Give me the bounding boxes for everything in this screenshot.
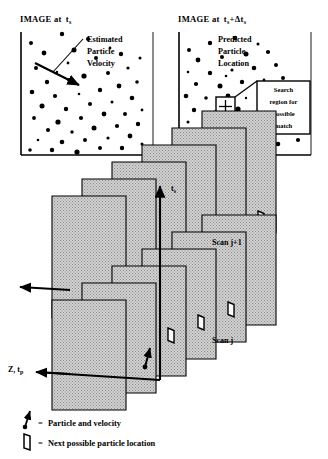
scan-label-lower: Scan j bbox=[212, 336, 233, 345]
particle-dot bbox=[252, 66, 257, 71]
legend-label-2: Next possible particle location bbox=[48, 439, 156, 448]
particle-dot bbox=[257, 43, 260, 46]
particle-dot bbox=[187, 121, 190, 124]
svg-text:Predicted: Predicted bbox=[218, 35, 252, 44]
particle-dot bbox=[115, 124, 119, 128]
particle-dot bbox=[34, 66, 38, 70]
legend-item-next-location: = Next possible particle location bbox=[24, 434, 156, 450]
svg-text:Estimated: Estimated bbox=[87, 35, 123, 44]
particle-dot bbox=[130, 96, 135, 101]
panel-left: IMAGE atts Estimated Particle Velocity bbox=[20, 14, 153, 155]
annotation-leader-left bbox=[53, 39, 83, 72]
panel-right-annotation: Predicted Particle Location bbox=[218, 35, 252, 68]
particle-dot bbox=[70, 130, 73, 133]
particle-dot bbox=[37, 139, 40, 142]
particle-dot bbox=[98, 146, 102, 150]
particle-dot bbox=[117, 84, 122, 89]
particle-dot bbox=[92, 126, 97, 131]
svg-text:Search: Search bbox=[274, 86, 294, 93]
particle-dot bbox=[230, 68, 233, 71]
panel-left-particles bbox=[28, 32, 143, 155]
particle-dot bbox=[102, 112, 107, 117]
particle-dot bbox=[240, 80, 244, 84]
particle-dot bbox=[296, 138, 300, 142]
particle-dot bbox=[128, 134, 133, 139]
particle-dot bbox=[106, 71, 110, 75]
particle-dot bbox=[281, 76, 285, 80]
particle-dot bbox=[83, 138, 87, 142]
particle-dot bbox=[266, 50, 270, 54]
particle-dot bbox=[111, 101, 114, 104]
panel-right-title: IMAGE atts+Δts bbox=[178, 14, 247, 25]
particle-dot bbox=[74, 149, 79, 154]
scan-label-upper: Scan j+1 bbox=[212, 238, 242, 247]
scan-plane bbox=[52, 300, 126, 410]
velocity-arrow bbox=[35, 63, 79, 85]
svg-text:Location: Location bbox=[218, 59, 249, 68]
particle-dot bbox=[60, 140, 65, 145]
particle-dot bbox=[208, 71, 212, 75]
particle-dot bbox=[40, 104, 45, 109]
particle-dot bbox=[81, 73, 86, 78]
particle-dot bbox=[208, 41, 212, 45]
particle-dot bbox=[78, 93, 81, 96]
particle-dot bbox=[29, 41, 33, 45]
legend-equals-2: = bbox=[38, 439, 43, 448]
svg-text:Velocity: Velocity bbox=[87, 59, 116, 68]
legend-equals-1: = bbox=[38, 419, 43, 428]
panel-left-title: IMAGE atts bbox=[20, 14, 72, 25]
next-location-quad bbox=[198, 315, 204, 330]
particle-dot bbox=[67, 62, 70, 65]
legend-label-1: Particle and velocity bbox=[48, 419, 122, 428]
particle-dot bbox=[192, 108, 196, 112]
svg-text:match: match bbox=[275, 122, 293, 129]
svg-text:region for: region for bbox=[270, 98, 298, 105]
particle-dot bbox=[119, 52, 123, 56]
legend-item-particle-velocity: = Particle and velocity bbox=[23, 411, 122, 429]
svg-text:Particle: Particle bbox=[218, 47, 246, 56]
particle-dot bbox=[55, 119, 60, 124]
particle-dot bbox=[50, 148, 54, 152]
legend: = Particle and velocity = Next possible … bbox=[23, 411, 156, 450]
next-location-quad bbox=[228, 302, 234, 317]
particle-dot bbox=[141, 109, 144, 112]
particle-dot bbox=[139, 57, 142, 60]
particle-dot bbox=[42, 51, 47, 56]
particle-dot bbox=[136, 122, 140, 126]
scan-plane-diagram: ts Z, tp Scan j+1 Scan j bbox=[8, 111, 276, 410]
particle-dot bbox=[204, 96, 208, 100]
particle-dot bbox=[30, 90, 35, 95]
particle-dot bbox=[225, 75, 228, 78]
particle-dot bbox=[245, 97, 247, 99]
particle-dot bbox=[196, 58, 201, 63]
particle-dot bbox=[28, 148, 32, 152]
particle-dot bbox=[88, 102, 92, 106]
particle-dot bbox=[218, 84, 223, 89]
particle-dot bbox=[60, 32, 64, 36]
particle-dot bbox=[126, 66, 129, 69]
particle-tracking-figure: IMAGE atts Estimated Particle Velocity I… bbox=[0, 0, 328, 459]
panel-left-annotation: Estimated Particle Velocity bbox=[87, 35, 123, 68]
particle-dot bbox=[194, 82, 198, 86]
axis-ztp-label: Z, tp bbox=[8, 365, 24, 375]
particle-dot bbox=[120, 146, 124, 150]
particle-dot bbox=[274, 63, 278, 67]
next-location-quad-icon bbox=[24, 434, 30, 450]
particle-dot bbox=[32, 116, 36, 120]
particle-dot bbox=[135, 80, 139, 84]
particle-dot bbox=[64, 107, 68, 111]
particle-dot bbox=[187, 48, 191, 52]
particle-dot bbox=[79, 116, 83, 120]
particle-dot bbox=[98, 88, 102, 92]
next-location-quad bbox=[168, 328, 174, 343]
particle-dot bbox=[53, 94, 57, 98]
particle-dot bbox=[187, 71, 190, 74]
particle-dot bbox=[46, 128, 50, 132]
particle-dot bbox=[106, 136, 109, 139]
particle-velocity-arrow-icon bbox=[23, 411, 30, 429]
svg-text:Particle: Particle bbox=[87, 47, 115, 56]
particle-dot bbox=[184, 94, 189, 99]
particle-dot bbox=[45, 80, 49, 84]
particle-dot bbox=[123, 112, 127, 116]
